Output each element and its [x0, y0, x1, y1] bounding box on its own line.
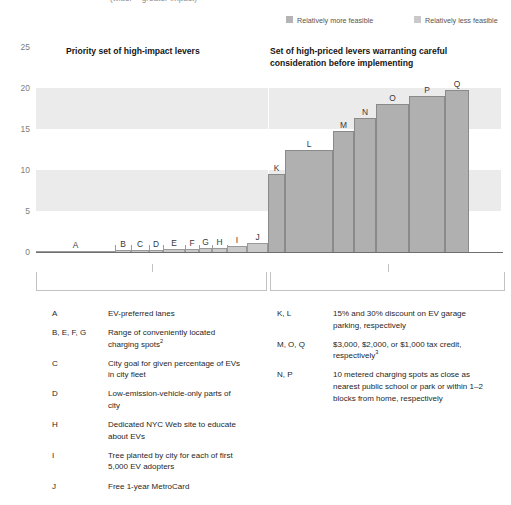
bar-p[interactable] [409, 96, 445, 252]
x-axis-tick [185, 245, 186, 252]
legend-item-2: Relatively less feasible [414, 15, 498, 28]
chart-plot-area: 0510152025 Priority set of high-impact l… [0, 40, 511, 260]
key-left-text: Dedicated NYC Web site to educate about … [108, 419, 242, 442]
group-header-left: Priority set of high-impact levers [66, 46, 266, 58]
y-axis-tick-10: 10 [4, 165, 30, 175]
bar-label-p: P [424, 85, 430, 95]
key-right-id: N, P [277, 369, 333, 404]
y-axis: 0510152025 [0, 40, 30, 260]
bar-m[interactable] [333, 131, 354, 252]
legend-item-label: Relatively less feasible [425, 16, 498, 25]
x-axis-tick [163, 245, 164, 252]
key-right-text: $3,000, $2,000, or $1,000 tax credit, re… [333, 339, 487, 362]
x-axis-line [36, 252, 503, 253]
key-left-id: A [52, 308, 108, 320]
chart-subtitle: (wider = greater impact) [110, 0, 370, 6]
bar-c[interactable] [131, 250, 149, 252]
bar-label-n: N [362, 107, 368, 117]
x-axis-tick [115, 245, 116, 252]
key-left-id: D [52, 388, 108, 411]
key-left-row: HDedicated NYC Web site to educate about… [52, 419, 242, 442]
key-left-text: Free 1-year MetroCard [108, 481, 242, 493]
x-axis-tick [149, 245, 150, 252]
bar-i[interactable] [227, 246, 247, 252]
bar-label-l: L [307, 139, 312, 149]
legend-swatch-icon [286, 16, 293, 23]
bar-label-f: F [189, 238, 194, 248]
footnote-marker: 2 [160, 338, 163, 344]
bar-label-m: M [340, 120, 347, 130]
chart-legend: Relatively more feasibleRelatively less … [286, 15, 506, 28]
key-left-text: EV-preferred lanes [108, 308, 242, 320]
x-axis-tick [199, 245, 200, 252]
bracket-left [36, 272, 267, 291]
y-axis-tick-20: 20 [4, 83, 30, 93]
key-right-id: K, L [277, 308, 333, 331]
bracket-stem [152, 264, 153, 272]
x-axis-tick [227, 245, 228, 252]
bar-f[interactable] [185, 249, 199, 252]
y-axis-tick-0: 0 [4, 247, 30, 257]
key-left-row: ITree planted by city for each of first … [52, 450, 242, 473]
bar-label-j: J [255, 232, 259, 242]
key-left-text: Low-emission-vehicle-only parts of city [108, 388, 242, 411]
bar-label-k: K [274, 163, 280, 173]
bar-label-q: Q [454, 79, 461, 89]
key-left-row: DLow-emission-vehicle-only parts of city [52, 388, 242, 411]
bar-o[interactable] [376, 104, 409, 252]
bar-label-a: A [73, 240, 79, 250]
key-right-row: K, L15% and 30% discount on EV garage pa… [277, 308, 487, 331]
bar-n[interactable] [354, 118, 376, 252]
y-axis-tick-25: 25 [4, 42, 30, 52]
key-left-row: CCity goal for given percentage of EVs i… [52, 358, 242, 381]
bar-a[interactable] [36, 251, 115, 252]
footnote-marker: 3 [375, 350, 378, 356]
bar-k[interactable] [268, 174, 285, 252]
key-list-left: AEV-preferred lanesB, E, F, GRange of co… [52, 308, 242, 500]
bar-label-d: D [153, 239, 159, 249]
bar-label-i: I [236, 235, 238, 245]
bar-label-e: E [171, 238, 177, 248]
y-axis-tick-5: 5 [4, 206, 30, 216]
x-axis-tick [212, 245, 213, 252]
key-left-text: Tree planted by city for each of first 5… [108, 450, 242, 473]
bar-label-c: C [137, 239, 143, 249]
bar-g[interactable] [199, 248, 212, 252]
legend-item-1: Relatively more feasible [286, 15, 373, 28]
key-right-row: M, O, Q$3,000, $2,000, or $1,000 tax cre… [277, 339, 487, 362]
key-right-text: 15% and 30% discount on EV garage parkin… [333, 308, 487, 331]
key-right-text: 10 metered charging spots as close as ne… [333, 369, 487, 404]
key-list-right: K, L15% and 30% discount on EV garage pa… [277, 308, 487, 412]
x-axis-tick [247, 245, 248, 252]
bar-label-g: G [202, 237, 209, 247]
bracket-right [270, 272, 505, 291]
bar-e[interactable] [163, 249, 185, 252]
bar-label-b: B [120, 239, 126, 249]
legend-swatch-icon [414, 16, 421, 23]
bar-label-o: O [389, 93, 396, 103]
bar-b[interactable] [115, 250, 131, 252]
bar-j[interactable] [247, 243, 268, 252]
key-right-id: M, O, Q [277, 339, 333, 362]
key-left-id: H [52, 419, 108, 442]
bracket-stem [388, 264, 389, 272]
bar-h[interactable] [212, 248, 227, 252]
key-left-id: I [52, 450, 108, 473]
key-left-id: C [52, 358, 108, 381]
legend-item-label: Relatively more feasible [297, 16, 373, 25]
key-left-text: Range of conveniently located charging s… [108, 327, 242, 350]
y-axis-tick-15: 15 [4, 124, 30, 134]
key-left-row: B, E, F, GRange of conveniently located … [52, 327, 242, 350]
bar-label-h: H [216, 237, 222, 247]
bar-d[interactable] [149, 250, 163, 252]
key-left-id: J [52, 481, 108, 493]
bar-q[interactable] [445, 90, 469, 252]
bar-l[interactable] [285, 150, 333, 253]
key-left-row: AEV-preferred lanes [52, 308, 242, 320]
key-right-row: N, P10 metered charging spots as close a… [277, 369, 487, 404]
key-left-row: JFree 1-year MetroCard [52, 481, 242, 493]
group-header-right: Set of high-priced levers warranting car… [270, 46, 500, 69]
key-left-text: City goal for given percentage of EVs in… [108, 358, 242, 381]
key-left-id: B, E, F, G [52, 327, 108, 350]
x-axis-tick [131, 245, 132, 252]
